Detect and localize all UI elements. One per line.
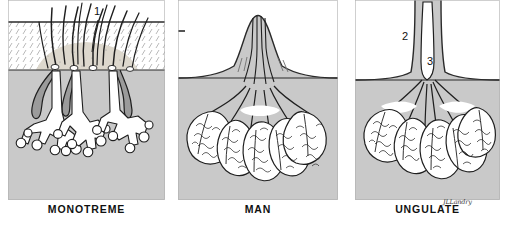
caption-monotreme: MONOTREME xyxy=(8,203,165,215)
monotreme-illustration xyxy=(8,0,165,200)
panel-ungulate: 2 3 xyxy=(355,0,500,200)
artist-signature: JLLandry xyxy=(443,198,472,206)
caption-man: MAN xyxy=(178,203,338,215)
panel-monotreme: 1 xyxy=(8,0,165,200)
panel-man xyxy=(178,0,338,200)
man-illustration xyxy=(178,0,338,200)
mammary-gland-comparison-figure: 1 MONOTREME xyxy=(0,0,507,235)
callout-label-1: 1 xyxy=(94,5,100,17)
callout-label-3: 3 xyxy=(427,55,433,67)
callout-label-2: 2 xyxy=(402,30,408,42)
caption-ungulate: UNGULATE xyxy=(355,203,500,215)
ungulate-illustration xyxy=(355,0,500,200)
